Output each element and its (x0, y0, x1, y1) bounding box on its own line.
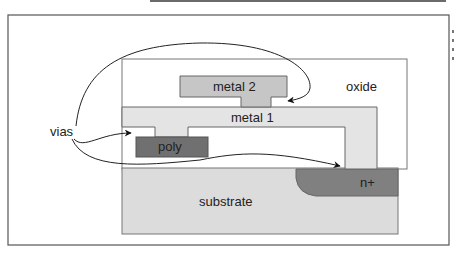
poly-label: poly (158, 139, 182, 154)
metal2-label: metal 2 (213, 79, 256, 94)
cross-section-diagram: vias metal 2 metal 1 oxide poly substrat… (0, 0, 457, 253)
oxide-label: oxide (346, 79, 377, 94)
substrate-label: substrate (199, 194, 252, 209)
vias-label: vias (50, 124, 74, 139)
metal1-label: metal 1 (231, 110, 274, 125)
nplus-region (296, 169, 398, 196)
nplus-label: n+ (360, 175, 375, 190)
